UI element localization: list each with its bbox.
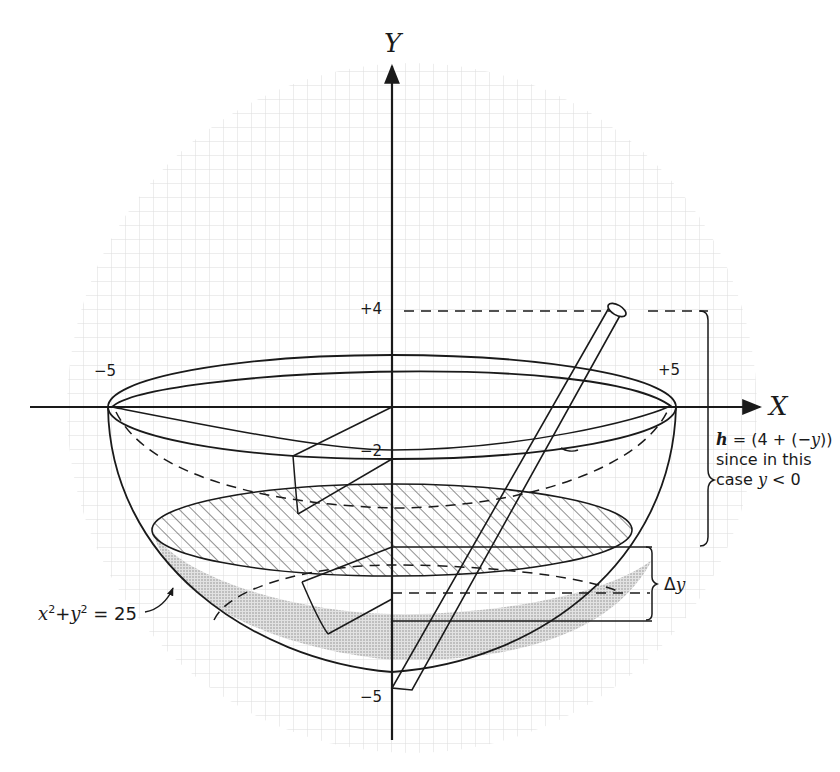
bowl-diagram xyxy=(0,0,840,772)
tick-y-neg2: −2 xyxy=(360,444,382,459)
h-annotation: h = (4 + (−y)) since in this case y < 0 xyxy=(716,430,832,490)
tick-x-neg5: −5 xyxy=(94,364,116,379)
y-axis-label: Y xyxy=(384,30,401,56)
h-formula: h = (4 + (−y)) xyxy=(716,430,832,450)
h-formula-close: )) xyxy=(820,430,832,449)
h-formula-rest: = (4 + (− xyxy=(728,430,811,449)
tick-y-neg5: −5 xyxy=(360,690,382,705)
circle-equation: x2+y2 = 25 xyxy=(38,600,137,624)
x-axis-label: X xyxy=(769,393,788,419)
h-var: h xyxy=(716,430,728,449)
h-line-2: since in this xyxy=(716,450,832,470)
delta-y-label: Δy xyxy=(664,574,685,594)
h-line-3: case y < 0 xyxy=(716,470,832,490)
tick-y-pos4: +4 xyxy=(360,302,382,317)
h-formula-y: y xyxy=(811,430,820,449)
tick-x-pos5: +5 xyxy=(658,363,680,378)
